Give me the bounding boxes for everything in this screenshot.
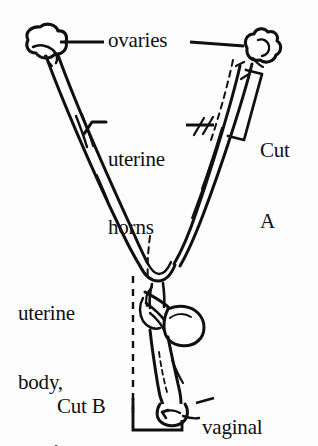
label-body-block-line1: uterine (18, 302, 75, 325)
label-cut-a: Cut A (260, 92, 290, 280)
label-body-block-line2: body, (18, 371, 75, 394)
label-cut-b: Cut B (57, 396, 106, 418)
label-uterine-horns-line2: horns (108, 216, 165, 239)
label-vaginal-opening: vaginal opening (202, 371, 268, 446)
right-ovary (236, 29, 281, 79)
label-cut-a-line1: Cut (260, 139, 290, 163)
right-uterine-horn (174, 64, 252, 266)
label-uterine-horns: uterine horns (108, 103, 165, 284)
label-uterine-horns-line1: uterine (108, 148, 165, 171)
label-body-block-line3: cervix, (18, 441, 75, 446)
vaginal-opening (157, 404, 199, 426)
leader-line-to-right-ovary (190, 42, 244, 46)
label-vaginal-opening-line1: vaginal (202, 416, 268, 439)
label-cut-a-line2: A (260, 210, 290, 234)
label-ovaries: ovaries (108, 30, 167, 52)
anatomy-figure: ovaries uterine horns Cut A uterine body… (0, 0, 318, 446)
